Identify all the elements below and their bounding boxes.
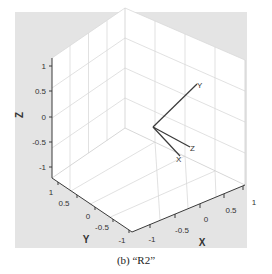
svg-text:X: X (176, 155, 182, 164)
r2-3d-plot: 1 0.5 0 -0.5 -1 Z 1 0.5 0 -0.5 -1 Y -1 -… (0, 0, 272, 274)
svg-text:1: 1 (42, 62, 47, 71)
svg-text:-1: -1 (39, 163, 47, 172)
svg-text:0.5: 0.5 (58, 199, 70, 208)
svg-text:0: 0 (42, 113, 47, 122)
svg-text:-0.5: -0.5 (32, 138, 46, 147)
figure-caption: (b) “R2” (0, 254, 272, 266)
svg-text:Y: Y (197, 81, 203, 90)
svg-text:0: 0 (204, 215, 209, 224)
svg-text:-1: -1 (118, 236, 126, 245)
svg-text:-0.5: -0.5 (95, 223, 109, 232)
svg-text:0.5: 0.5 (35, 87, 47, 96)
svg-text:0: 0 (86, 212, 91, 221)
x-axis-label: X (199, 237, 206, 248)
z-axis-label: Z (14, 112, 25, 118)
svg-text:1: 1 (49, 188, 54, 197)
svg-text:0.5: 0.5 (225, 206, 237, 215)
svg-text:Z: Z (190, 144, 195, 153)
svg-text:-1: -1 (148, 235, 156, 244)
y-axis-label: Y (83, 234, 90, 245)
svg-text:1: 1 (252, 198, 257, 207)
svg-text:-0.5: -0.5 (175, 226, 189, 235)
